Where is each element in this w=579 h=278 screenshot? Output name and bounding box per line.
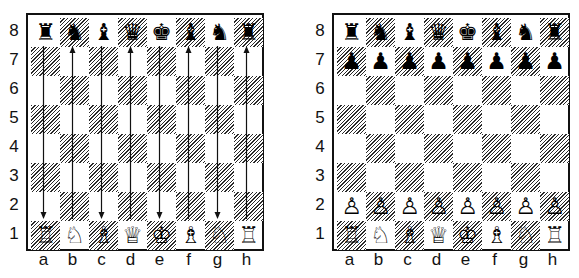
black-bishop-icon[interactable]: ♝ [486, 21, 507, 44]
square-d1[interactable]: ♕ [424, 221, 453, 250]
square-c3[interactable] [89, 163, 118, 192]
square-d4[interactable] [424, 134, 453, 163]
square-g2[interactable] [205, 192, 234, 221]
black-king-icon[interactable]: ♚ [457, 21, 478, 44]
square-b3[interactable] [366, 163, 395, 192]
square-f6[interactable] [482, 76, 511, 105]
square-a1[interactable]: ♖ [337, 221, 366, 250]
square-a7[interactable] [31, 47, 60, 76]
square-h1[interactable]: ♖ [234, 221, 263, 250]
square-h6[interactable] [540, 76, 569, 105]
square-g1[interactable]: ♘ [205, 221, 234, 250]
square-e8[interactable]: ♚ [147, 18, 176, 47]
square-c1[interactable]: ♗ [89, 221, 118, 250]
black-knight-icon[interactable]: ♞ [515, 21, 536, 44]
white-knight-icon[interactable]: ♘ [209, 224, 230, 247]
square-a6[interactable] [31, 76, 60, 105]
square-f4[interactable] [482, 134, 511, 163]
square-a6[interactable] [337, 76, 366, 105]
square-d8[interactable]: ♛ [424, 18, 453, 47]
square-f2[interactable] [176, 192, 205, 221]
square-b6[interactable] [366, 76, 395, 105]
square-h2[interactable] [234, 192, 263, 221]
square-d8[interactable]: ♛ [118, 18, 147, 47]
square-b5[interactable] [60, 105, 89, 134]
square-b1[interactable]: ♘ [60, 221, 89, 250]
square-g3[interactable] [205, 163, 234, 192]
white-pawn-icon[interactable]: ♙ [341, 195, 362, 218]
black-knight-icon[interactable]: ♞ [209, 21, 230, 44]
square-g8[interactable]: ♞ [205, 18, 234, 47]
square-e1[interactable]: ♔ [147, 221, 176, 250]
black-pawn-icon[interactable]: ♟ [544, 50, 565, 73]
square-b2[interactable] [60, 192, 89, 221]
square-h4[interactable] [540, 134, 569, 163]
square-f8[interactable]: ♝ [176, 18, 205, 47]
square-b2[interactable]: ♙ [366, 192, 395, 221]
square-a4[interactable] [31, 134, 60, 163]
square-d7[interactable] [118, 47, 147, 76]
square-e6[interactable] [453, 76, 482, 105]
square-g2[interactable]: ♙ [511, 192, 540, 221]
square-b4[interactable] [60, 134, 89, 163]
black-pawn-icon[interactable]: ♟ [399, 50, 420, 73]
square-e5[interactable] [147, 105, 176, 134]
square-f3[interactable] [482, 163, 511, 192]
square-b6[interactable] [60, 76, 89, 105]
square-g3[interactable] [511, 163, 540, 192]
square-e1[interactable]: ♔ [453, 221, 482, 250]
black-pawn-icon[interactable]: ♟ [486, 50, 507, 73]
square-d6[interactable] [424, 76, 453, 105]
black-pawn-icon[interactable]: ♟ [515, 50, 536, 73]
white-bishop-icon[interactable]: ♗ [486, 224, 507, 247]
black-knight-icon[interactable]: ♞ [64, 21, 85, 44]
square-g1[interactable]: ♘ [511, 221, 540, 250]
square-h2[interactable]: ♙ [540, 192, 569, 221]
square-f5[interactable] [482, 105, 511, 134]
square-d3[interactable] [118, 163, 147, 192]
square-a5[interactable] [31, 105, 60, 134]
white-bishop-icon[interactable]: ♗ [180, 224, 201, 247]
black-pawn-icon[interactable]: ♟ [370, 50, 391, 73]
white-king-icon[interactable]: ♔ [457, 224, 478, 247]
square-b4[interactable] [366, 134, 395, 163]
white-pawn-icon[interactable]: ♙ [515, 195, 536, 218]
square-h8[interactable]: ♜ [540, 18, 569, 47]
black-pawn-icon[interactable]: ♟ [457, 50, 478, 73]
square-c6[interactable] [89, 76, 118, 105]
white-pawn-icon[interactable]: ♙ [428, 195, 449, 218]
square-a4[interactable] [337, 134, 366, 163]
white-pawn-icon[interactable]: ♙ [370, 195, 391, 218]
square-c7[interactable] [89, 47, 118, 76]
square-d3[interactable] [424, 163, 453, 192]
black-rook-icon[interactable]: ♜ [35, 21, 56, 44]
square-h8[interactable]: ♜ [234, 18, 263, 47]
square-d1[interactable]: ♕ [118, 221, 147, 250]
square-g7[interactable] [205, 47, 234, 76]
white-bishop-icon[interactable]: ♗ [93, 224, 114, 247]
square-c8[interactable]: ♝ [89, 18, 118, 47]
square-h1[interactable]: ♖ [540, 221, 569, 250]
square-c4[interactable] [89, 134, 118, 163]
square-b5[interactable] [366, 105, 395, 134]
square-e3[interactable] [453, 163, 482, 192]
square-c4[interactable] [395, 134, 424, 163]
square-d2[interactable] [118, 192, 147, 221]
square-c8[interactable]: ♝ [395, 18, 424, 47]
white-rook-icon[interactable]: ♖ [341, 224, 362, 247]
white-knight-icon[interactable]: ♘ [370, 224, 391, 247]
square-g8[interactable]: ♞ [511, 18, 540, 47]
square-c3[interactable] [395, 163, 424, 192]
black-queen-icon[interactable]: ♛ [122, 21, 143, 44]
black-king-icon[interactable]: ♚ [151, 21, 172, 44]
white-knight-icon[interactable]: ♘ [515, 224, 536, 247]
square-e4[interactable] [147, 134, 176, 163]
black-rook-icon[interactable]: ♜ [238, 21, 259, 44]
square-h5[interactable] [234, 105, 263, 134]
square-d6[interactable] [118, 76, 147, 105]
black-rook-icon[interactable]: ♜ [544, 21, 565, 44]
square-g6[interactable] [205, 76, 234, 105]
square-h7[interactable]: ♟ [540, 47, 569, 76]
black-pawn-icon[interactable]: ♟ [341, 50, 362, 73]
square-a3[interactable] [337, 163, 366, 192]
